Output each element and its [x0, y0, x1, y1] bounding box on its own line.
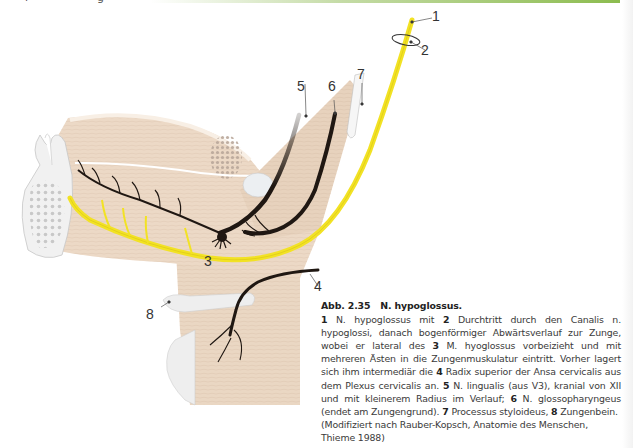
label-8: 8 [146, 307, 154, 321]
mandible-bone [22, 134, 72, 258]
label-1: 1 [432, 9, 440, 23]
caption-text: Processus styloideus, [449, 406, 551, 417]
figure-number: Abb. 2.35 [321, 300, 370, 311]
caption-title: Abb. 2.35N. hypoglossus. [321, 299, 621, 312]
label-5: 5 [297, 79, 305, 93]
label-3: 3 [204, 254, 212, 268]
caption-text: Zungenbein. [557, 406, 617, 417]
caption-credit: (Modifiziert nach Rauber-Kopsch, Anatomi… [321, 418, 621, 444]
thyroid-cartilage [167, 330, 195, 405]
figure-caption: Abb. 2.35N. hypoglossus. 1 N. hypoglossu… [321, 299, 621, 444]
caption-body: 1 N. hypoglossus mit 2 Durchtritt durch … [321, 313, 621, 418]
label-4: 4 [314, 279, 322, 293]
label-2: 2 [421, 43, 429, 57]
label-7: 7 [357, 67, 365, 81]
caption-text: N. hypoglossus mit [327, 314, 443, 325]
figure-title: N. hypoglossus. [380, 300, 462, 311]
label-6: 6 [328, 79, 336, 93]
